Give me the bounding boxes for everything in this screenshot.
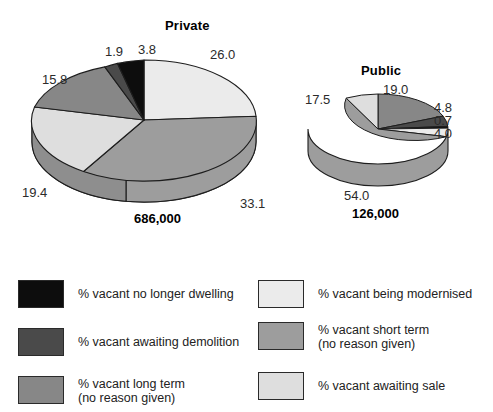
private-value-awaiting-sale: 19.4: [22, 185, 47, 200]
legend-label-long-term: % vacant long term (no reason given): [78, 376, 185, 405]
chart-legend: % vacant no longer dwelling % vacant awa…: [0, 272, 493, 412]
public-pie-svg: [305, 93, 451, 201]
legend-swatch-long-term: [18, 376, 64, 404]
legend-swatch-being-modernised: [258, 280, 304, 308]
legend-item-long-term: % vacant long term (no reason given): [18, 376, 185, 405]
public-pie-chart: [305, 93, 451, 205]
private-value-awaiting-demolition: 1.9: [105, 44, 123, 59]
public-total-label: 126,000: [352, 206, 399, 221]
legend-label-short-term: % vacant short term (no reason given): [318, 322, 429, 351]
legend-swatch-awaiting-sale: [258, 372, 304, 400]
legend-label-awaiting-demolition: % vacant awaiting demolition: [78, 328, 239, 349]
legend-label-no-longer-dwelling: % vacant no longer dwelling: [78, 280, 234, 301]
private-value-modernised: 26.0: [210, 47, 235, 62]
private-chart-title: Private: [165, 18, 210, 33]
legend-item-no-longer-dwelling: % vacant no longer dwelling: [18, 280, 234, 308]
legend-swatch-no-longer-dwelling: [18, 280, 64, 308]
public-value-awaiting-sale: 17.5: [305, 92, 330, 107]
public-value-modernised: 4.0: [434, 126, 452, 141]
legend-item-awaiting-demolition: % vacant awaiting demolition: [18, 328, 239, 356]
public-chart-title: Public: [361, 63, 401, 78]
legend-item-awaiting-sale: % vacant awaiting sale: [258, 372, 445, 400]
private-value-no-longer-dwelling: 3.8: [138, 42, 156, 57]
legend-item-being-modernised: % vacant being modernised: [258, 280, 472, 308]
private-total-label: 686,000: [134, 211, 181, 226]
public-pie-top: [345, 94, 448, 140]
private-value-short-term: 33.1: [240, 196, 265, 211]
legend-label-being-modernised: % vacant being modernised: [318, 280, 472, 301]
legend-swatch-short-term: [258, 322, 304, 350]
legend-label-awaiting-sale: % vacant awaiting sale: [318, 372, 445, 393]
private-value-long-term: 15.8: [42, 72, 67, 87]
chart-canvas: Private: [0, 0, 493, 412]
public-value-long-term: 19.0: [383, 82, 408, 97]
public-value-short-term: 54.0: [344, 188, 369, 203]
private-slice-modernised: [144, 60, 256, 120]
legend-swatch-awaiting-demolition: [18, 328, 64, 356]
legend-item-short-term: % vacant short term (no reason given): [258, 322, 429, 351]
